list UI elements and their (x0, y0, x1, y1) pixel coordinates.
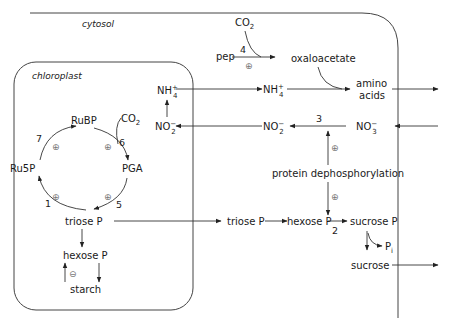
step-6: 6 (119, 137, 125, 148)
co2-in-arc-cytosol (245, 31, 261, 57)
metabolic-diagram: cytosol chloroplast RuBP PGA Ru5P CO2 7 … (0, 0, 453, 325)
step-3: 3 (316, 113, 322, 124)
step-5: 5 (116, 199, 122, 210)
step-7: 7 (36, 133, 42, 144)
hexose-p-chloroplast: hexose P (63, 250, 108, 261)
activation-icon: ⊕ (104, 192, 112, 202)
starch-label: starch (70, 284, 101, 295)
activation-icon: ⊕ (245, 61, 253, 71)
cytosol-label: cytosol (82, 19, 115, 29)
activation-icon: ⊕ (104, 142, 112, 152)
step-4: 4 (240, 44, 246, 55)
no2-cytosol: NO−2 (263, 120, 284, 136)
pep-label: pep (216, 51, 235, 62)
no3-cytosol: NO−3 (356, 120, 377, 136)
activation-icon: ⊕ (331, 192, 339, 202)
pi-label: Pi (385, 241, 393, 255)
nh4-cytosol: NH+4 (263, 83, 284, 99)
chloroplast-label: chloroplast (32, 71, 82, 81)
activation-icon: ⊕ (52, 142, 60, 152)
oxaloacetate-in-arc (318, 67, 342, 89)
no2-chloroplast: NO−2 (155, 120, 176, 136)
pi-release-arc (368, 233, 382, 246)
nh4-chloroplast: NH+4 (157, 84, 178, 100)
triose-p-chloroplast: triose P (65, 216, 103, 227)
sucrose-p-label: sucrose P (350, 216, 398, 227)
protein-dephosphorylation-label: protein dephosphorylation (272, 168, 404, 179)
step-1: 1 (45, 198, 51, 209)
chloroplast-membrane (14, 62, 193, 310)
inhibition-icon: ⊖ (69, 269, 77, 279)
activation-icon: ⊕ (331, 143, 339, 153)
pga-label: PGA (122, 163, 143, 174)
co2-cytosol-label: CO2 (235, 17, 254, 31)
ru5p-label: Ru5P (10, 163, 35, 174)
activation-icon: ⊕ (52, 192, 60, 202)
amino-label: amino (356, 78, 387, 89)
co2-chloroplast-label: CO2 (121, 113, 140, 127)
triose-p-cytosol: triose P (227, 216, 265, 227)
acids-label: acids (359, 90, 385, 101)
step-2: 2 (332, 225, 338, 236)
rubp-label: RuBP (71, 115, 97, 126)
oxaloacetate-label: oxaloacetate (291, 53, 356, 64)
sucrose-label: sucrose (351, 260, 389, 271)
hexose-p-cytosol: hexose P (287, 216, 332, 227)
